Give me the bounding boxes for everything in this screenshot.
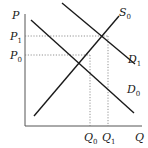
- p1-label: P1: [9, 30, 22, 45]
- x-axis-label: Q: [135, 131, 144, 144]
- y-axis-label: P: [11, 9, 20, 22]
- demand-curve-d0: [31, 20, 134, 113]
- d1-label: D1: [127, 53, 141, 68]
- d0-label: D0: [126, 83, 140, 98]
- supply-demand-diagram: P Q P1 P0 Q0 Q1 S0 D1 D0: [0, 0, 148, 148]
- s0-label: S0: [119, 6, 131, 21]
- q1-label: Q1: [102, 131, 116, 146]
- p0-label: P0: [9, 49, 22, 64]
- supply-curve-s0: [34, 16, 119, 116]
- q0-label: Q0: [84, 131, 98, 146]
